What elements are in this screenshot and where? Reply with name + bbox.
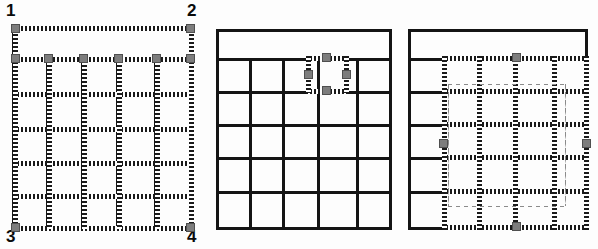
panel-column-range-selected[interactable] bbox=[400, 0, 598, 249]
panel-single-cell-selected[interactable] bbox=[205, 0, 400, 249]
resize-handle-range-bottom[interactable] bbox=[512, 222, 521, 231]
resize-handle-range-right[interactable] bbox=[582, 139, 591, 148]
marquee-edge-top bbox=[448, 84, 565, 85]
resize-handle-header-right[interactable] bbox=[186, 54, 195, 63]
resize-handle-top-left[interactable] bbox=[11, 24, 20, 33]
resize-handle-bottom-right[interactable] bbox=[186, 223, 195, 232]
grid-col-line bbox=[389, 29, 392, 230]
resize-handle-range-top[interactable] bbox=[512, 53, 521, 62]
selection-edge-inner bbox=[82, 57, 87, 229]
grid-row-line bbox=[216, 227, 392, 230]
resize-handle-cell-bottom[interactable] bbox=[322, 86, 331, 95]
marquee-edge-right bbox=[565, 84, 566, 206]
resize-handle-cell-left[interactable] bbox=[304, 70, 313, 79]
selection-edge-inner bbox=[477, 56, 482, 230]
marquee-edge-bottom bbox=[448, 206, 565, 207]
selection-edge-top bbox=[13, 26, 194, 31]
resize-handle-cell-right[interactable] bbox=[342, 70, 351, 79]
selection-edge-bottom bbox=[13, 226, 194, 231]
grid-col-line bbox=[408, 29, 411, 230]
selection-edge-inner bbox=[47, 57, 52, 229]
selection-edge-inner bbox=[513, 56, 518, 230]
grid-row-line bbox=[408, 29, 588, 32]
grid-col-line bbox=[249, 58, 252, 227]
grid-row-line bbox=[216, 29, 392, 32]
resize-handle-header-c2[interactable] bbox=[79, 54, 88, 63]
resize-handle-header-left[interactable] bbox=[11, 54, 20, 63]
selection-edge-inner bbox=[117, 57, 122, 229]
selection-edge-inner bbox=[13, 194, 194, 199]
grid-row-line bbox=[216, 191, 392, 194]
marquee-edge-left bbox=[448, 84, 449, 206]
resize-handle-header-c4[interactable] bbox=[152, 54, 161, 63]
panel-whole-table-selected[interactable]: 1 2 3 4 bbox=[0, 0, 205, 249]
selection-edge-inner bbox=[13, 127, 194, 132]
grid-col-line bbox=[317, 58, 320, 227]
resize-handle-bottom-left[interactable] bbox=[11, 223, 20, 232]
selection-edge-header-bottom bbox=[13, 57, 194, 62]
corner-label-top-left: 1 bbox=[6, 2, 15, 19]
selection-edge-inner bbox=[552, 56, 557, 230]
resize-handle-cell-top[interactable] bbox=[322, 53, 331, 62]
grid-row-line bbox=[216, 91, 392, 94]
grid-col-line bbox=[282, 58, 285, 227]
resize-handle-top-right[interactable] bbox=[186, 24, 195, 33]
selection-edge-inner bbox=[13, 161, 194, 166]
corner-label-top-right: 2 bbox=[187, 2, 196, 19]
table-outline-2 bbox=[216, 29, 392, 230]
grid-col-line bbox=[356, 58, 359, 227]
resize-handle-header-c1[interactable] bbox=[44, 54, 53, 63]
grid-col-line bbox=[216, 29, 219, 230]
selection-edge-inner bbox=[13, 92, 194, 97]
selection-edge-inner bbox=[155, 57, 160, 229]
resize-handle-range-left[interactable] bbox=[439, 139, 448, 148]
grid-row-line bbox=[216, 157, 392, 160]
grid-row-line bbox=[216, 124, 392, 127]
resize-handle-header-c3[interactable] bbox=[114, 54, 123, 63]
grid-row-line bbox=[216, 58, 392, 61]
